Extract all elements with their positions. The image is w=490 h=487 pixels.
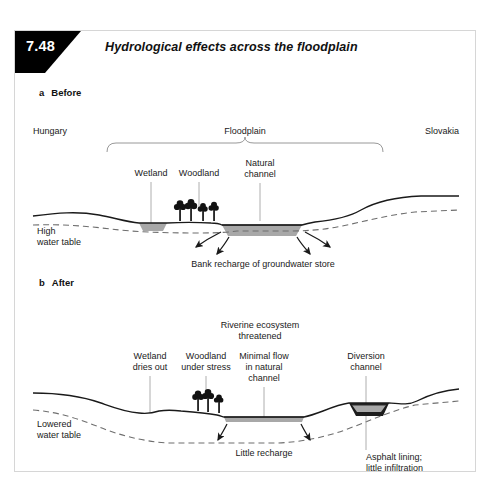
label-natural-channel-line2: channel bbox=[244, 169, 276, 179]
label-riverine-ecosystem-line1: Riverine ecosystem bbox=[221, 320, 300, 330]
wetland-pond bbox=[139, 223, 167, 231]
figure-header: 7.48 Hydrological effects across the flo… bbox=[15, 31, 475, 65]
little-recharge-arrows bbox=[218, 424, 310, 440]
label-hungary: Hungary bbox=[33, 126, 68, 136]
figure-title: Hydrological effects across the floodpla… bbox=[105, 40, 358, 54]
minimal-flow-water bbox=[224, 417, 304, 422]
panel-b-name: After bbox=[52, 277, 74, 288]
label-wetland-dries-line1: Wetland bbox=[134, 351, 167, 361]
panel-b-heading: bAfter bbox=[39, 277, 74, 288]
label-woodland-stress-line1: Woodland bbox=[186, 351, 226, 361]
label-riverine-ecosystem-line2: threatened bbox=[238, 331, 281, 341]
label-floodplain: Floodplain bbox=[224, 126, 266, 136]
panel-a-name: Before bbox=[51, 87, 81, 98]
label-natural-channel-line1: Natural bbox=[245, 158, 274, 168]
label-high-water-table-line2: water table bbox=[36, 237, 81, 247]
label-diversion-line2: channel bbox=[350, 362, 382, 372]
label-woodland-stress-line2: under stress bbox=[181, 362, 231, 372]
label-minimal-flow-line1: Minimal flow bbox=[239, 351, 289, 361]
label-woodland: Woodland bbox=[179, 168, 219, 178]
ground-surface-before bbox=[33, 196, 459, 225]
tree bbox=[192, 390, 204, 411]
label-minimal-flow-line2: in natural bbox=[245, 362, 282, 372]
ground-surface-after bbox=[33, 389, 459, 417]
tree bbox=[214, 394, 224, 413]
panel-b-tag: b bbox=[39, 277, 45, 288]
tree bbox=[202, 389, 214, 412]
tree bbox=[209, 202, 219, 221]
woodland-trees-after bbox=[192, 389, 223, 413]
label-wetland-dries-line2: dries out bbox=[133, 362, 168, 372]
woodland-trees-before bbox=[174, 199, 219, 221]
figure-frame: 7.48 Hydrological effects across the flo… bbox=[14, 30, 476, 472]
label-asphalt-line1: Asphalt lining; bbox=[366, 452, 422, 462]
label-diversion-line1: Diversion bbox=[347, 351, 385, 361]
diversion-channel bbox=[349, 403, 389, 416]
label-slovakia: Slovakia bbox=[425, 126, 459, 136]
label-high-water-table-line1: High bbox=[37, 226, 56, 236]
figure-number: 7.48 bbox=[26, 38, 55, 54]
label-lowered-water-table-line1: Lowered bbox=[37, 419, 72, 429]
label-wetland: Wetland bbox=[135, 168, 168, 178]
tree bbox=[174, 200, 186, 221]
panel-b-diagram: Riverine ecosystem threatened Wetland dr… bbox=[15, 293, 477, 471]
label-minimal-flow-line3: channel bbox=[248, 373, 280, 383]
floodplain-bracket bbox=[107, 137, 383, 152]
panel-a-tag: a bbox=[39, 87, 44, 98]
label-bank-recharge: Bank recharge of groundwater store bbox=[191, 259, 335, 269]
panel-a-diagram: Hungary Floodplain Slovakia Wetland Wood… bbox=[15, 103, 477, 273]
natural-channel-water bbox=[222, 225, 302, 236]
label-lowered-water-table-line2: water table bbox=[36, 430, 81, 440]
diversion-channel-water bbox=[352, 405, 386, 412]
panel-a-heading: aBefore bbox=[39, 87, 81, 98]
label-little-recharge: Little recharge bbox=[235, 448, 292, 458]
tree bbox=[185, 199, 197, 221]
label-asphalt-line2: little infiltration bbox=[366, 463, 423, 471]
